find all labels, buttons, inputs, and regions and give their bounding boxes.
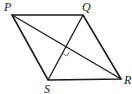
rhombus-diagram: P Q R S	[0, 0, 132, 94]
vertex-label-r: R	[123, 73, 132, 87]
diagonal-qs	[48, 15, 83, 80]
vertex-label-q: Q	[82, 0, 91, 14]
vertex-label-p: P	[3, 0, 12, 14]
vertex-label-s: S	[44, 82, 50, 94]
